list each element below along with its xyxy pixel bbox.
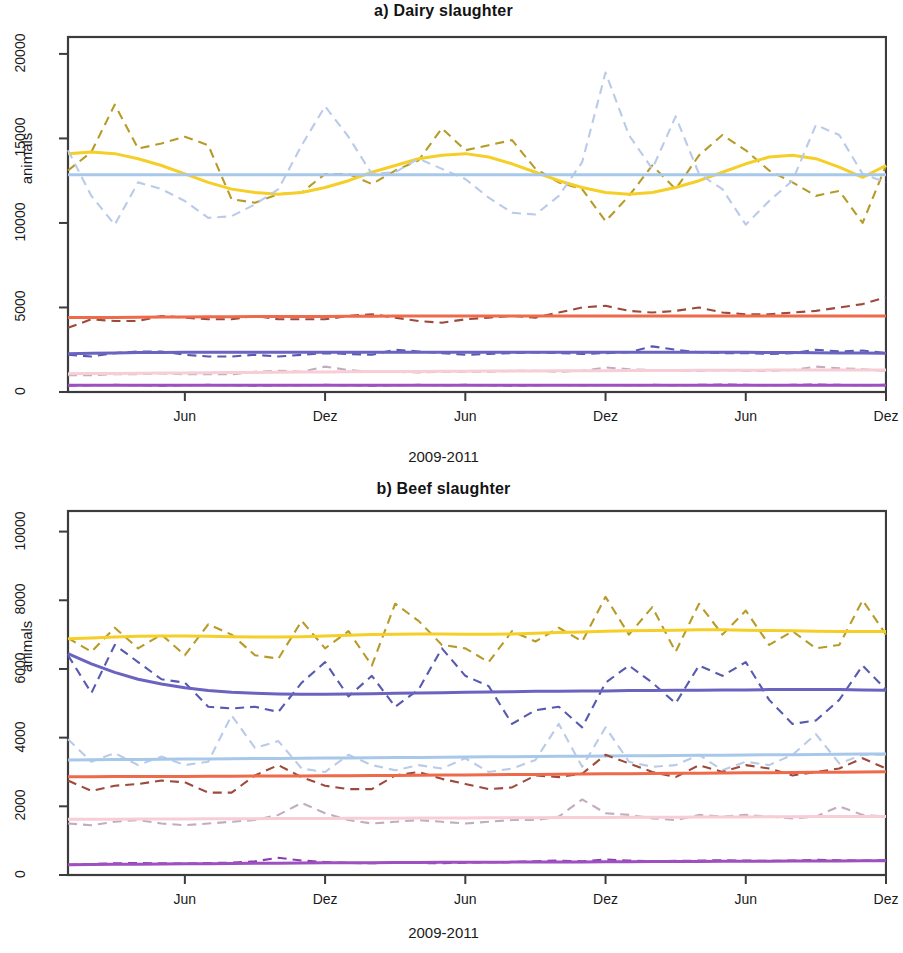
y-tick-label: 0 [12, 842, 28, 906]
series-region-6-fitted [68, 861, 886, 865]
series-region-4-fitted [68, 772, 886, 777]
y-tick-label: 20000 [12, 21, 28, 85]
x-tick-label: Dez [856, 408, 903, 424]
series-region-3-observed [68, 715, 886, 772]
series-region-5-observed [68, 799, 886, 825]
y-tick-label: 0 [12, 359, 28, 423]
series-region-5-fitted [68, 817, 886, 820]
x-tick-label: Jun [435, 891, 495, 907]
x-tick-label: Dez [576, 891, 636, 907]
x-tick-label: Dez [856, 891, 903, 907]
y-tick-label: 8000 [12, 567, 28, 631]
series-region-4-fitted [68, 352, 886, 353]
panel-beef-slaughter: b) Beef slaughter animals 2009-2011 0200… [0, 478, 887, 953]
series-region-3-observed [68, 297, 886, 327]
series-region-2-fitted [68, 654, 886, 695]
x-tick-label: Jun [155, 891, 215, 907]
series-region-2-observed [68, 645, 886, 727]
x-tick-label: Dez [576, 408, 636, 424]
panel-b-plot [0, 478, 887, 953]
y-tick-label: 6000 [12, 636, 28, 700]
y-tick-label: 5000 [12, 274, 28, 338]
y-tick-label: 2000 [12, 773, 28, 837]
x-tick-label: Dez [295, 408, 355, 424]
x-tick-label: Jun [155, 408, 215, 424]
x-tick-label: Jun [435, 408, 495, 424]
x-tick-label: Jun [716, 891, 776, 907]
y-tick-label: 10000 [12, 190, 28, 254]
series-region-3-fitted [68, 316, 886, 318]
series-region-1-observed [68, 105, 886, 223]
y-tick-label: 4000 [12, 705, 28, 769]
x-tick-label: Jun [716, 408, 776, 424]
y-tick-label: 10000 [12, 499, 28, 563]
panel-dairy-slaughter: a) Dairy slaughter animals 2009-2011 050… [0, 0, 887, 480]
x-tick-label: Dez [295, 891, 355, 907]
y-tick-label: 15000 [12, 105, 28, 169]
series-region-3-fitted [68, 754, 886, 760]
series-region-2-observed [68, 73, 886, 225]
